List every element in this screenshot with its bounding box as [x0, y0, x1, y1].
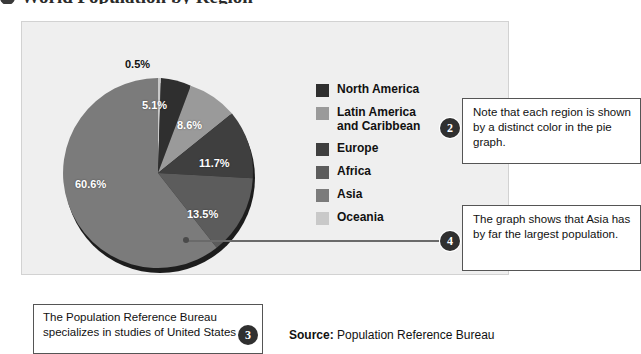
callout-text: The Population Reference Bureau speciali…: [43, 311, 236, 338]
leader-line-dot: [183, 237, 189, 243]
callout-text: Note that each region is shown by a dist…: [473, 106, 631, 148]
callout-badge-4[interactable]: 4: [440, 231, 460, 251]
callout-text: The graph shows that Asia has by far the…: [473, 213, 630, 240]
legend-swatch-icon: [316, 84, 329, 97]
legend-item-africa[interactable]: Africa: [316, 164, 466, 179]
callout-badge-3[interactable]: 3: [238, 325, 258, 345]
legend-swatch-icon: [316, 166, 329, 179]
legend-label: Asia: [337, 187, 362, 201]
legend-item-europe[interactable]: Europe: [316, 141, 466, 156]
page-title-text: World Population by Region: [21, 0, 253, 4]
callout-badge-2[interactable]: 2: [440, 118, 460, 138]
pie-label-latin-america: 8.6%: [177, 119, 202, 131]
legend-swatch-icon: [316, 143, 329, 156]
page-title-remnant: World Population by Region: [0, 0, 420, 4]
legend-label: Latin America and Caribbean: [337, 105, 420, 133]
callout-note-4: The graph shows that Asia has by far the…: [462, 205, 641, 271]
legend-item-asia[interactable]: Asia: [316, 187, 466, 202]
legend-label: Africa: [337, 164, 371, 178]
pie-label-europe: 11.7%: [199, 157, 230, 169]
legend-item-oceania[interactable]: Oceania: [316, 210, 466, 225]
legend-item-north-america[interactable]: North America: [316, 82, 466, 97]
legend-label: Oceania: [337, 210, 384, 224]
legend-swatch-icon: [316, 107, 329, 120]
title-bullet-icon: [0, 0, 15, 4]
pie-label-asia: 60.6%: [75, 178, 106, 190]
callout-note-3: The Population Reference Bureau speciali…: [33, 304, 263, 354]
leader-line: [186, 240, 442, 242]
source-label: Source:: [289, 328, 334, 342]
chart-legend: North America Latin America and Caribbea…: [316, 82, 466, 233]
pie-chart: 0.5% 5.1% 8.6% 11.7% 13.5% 60.6%: [59, 74, 264, 274]
pie-label-africa: 13.5%: [187, 208, 218, 220]
legend-swatch-icon: [316, 212, 329, 225]
source-line: Source: Population Reference Bureau: [289, 328, 494, 342]
pie-label-north-america: 5.1%: [142, 99, 167, 111]
chart-panel: 0.5% 5.1% 8.6% 11.7% 13.5% 60.6% North A…: [21, 21, 509, 275]
source-text: Population Reference Bureau: [337, 328, 494, 342]
legend-label: North America: [337, 82, 419, 96]
pie-label-oceania: 0.5%: [125, 58, 150, 70]
legend-swatch-icon: [316, 189, 329, 202]
legend-label: Europe: [337, 141, 378, 155]
callout-note-2: Note that each region is shown by a dist…: [462, 98, 641, 164]
